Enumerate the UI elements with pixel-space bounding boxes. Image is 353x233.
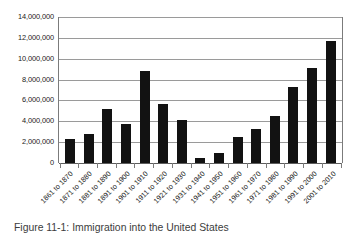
y-axis-tick-label: 2,000,000 [22, 138, 54, 145]
bar-slot [228, 17, 247, 163]
bar-slot [210, 17, 229, 163]
bar-slot [98, 17, 117, 163]
x-label-slot: 2001 to 2010 [322, 168, 341, 216]
bar-slot [154, 17, 173, 163]
bar-slot [284, 17, 303, 163]
y-axis-tick-label: 8,000,000 [22, 76, 54, 83]
figure-immigration-chart: 14,000,00012,000,00010,000,0008,000,0006… [0, 0, 353, 233]
bar-slot [266, 17, 285, 163]
bar-slot [191, 17, 210, 163]
x-axis-tick-labels: 1861 to 18701871 to 18801881 to 18901891… [58, 168, 343, 216]
bar-slot [173, 17, 192, 163]
bar [251, 129, 261, 163]
plot-box [58, 17, 343, 163]
bar-series [59, 17, 342, 163]
bar [307, 68, 317, 163]
y-axis-tick-label: 14,000,000 [18, 13, 54, 20]
bar-slot [321, 17, 340, 163]
bar-slot [80, 17, 99, 163]
bar-slot [135, 17, 154, 163]
y-axis-tick-label: 10,000,000 [18, 55, 54, 62]
bar-slot [117, 17, 136, 163]
bar [158, 104, 168, 163]
bar [102, 109, 112, 163]
bar [121, 124, 131, 163]
bar [84, 134, 94, 163]
y-axis-tick-label: 6,000,000 [22, 97, 54, 104]
bar [177, 120, 187, 163]
bar-slot [303, 17, 322, 163]
y-axis-tick-label: 4,000,000 [22, 118, 54, 125]
bar [288, 87, 298, 163]
bar [214, 153, 224, 163]
y-axis-tick-labels: 14,000,00012,000,00010,000,0008,000,0006… [0, 0, 58, 172]
bar [233, 137, 243, 163]
chart-plot-area: 14,000,00012,000,00010,000,0008,000,0006… [0, 0, 353, 172]
y-axis-tick-label: 12,000,000 [18, 34, 54, 41]
figure-caption: Figure 11-1: Immigration into the United… [14, 222, 344, 233]
bar [65, 139, 75, 163]
bar [270, 116, 280, 163]
bar [326, 41, 336, 163]
bar-slot [61, 17, 80, 163]
bar-slot [247, 17, 266, 163]
y-axis-tick-label: 0 [50, 159, 54, 166]
bar [140, 71, 150, 163]
